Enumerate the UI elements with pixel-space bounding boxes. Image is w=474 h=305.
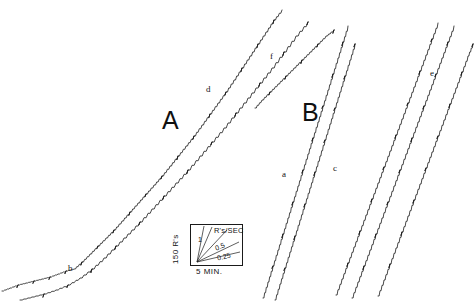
panel-letter-a: A <box>162 108 179 133</box>
curve-label-d: d <box>206 85 211 94</box>
cumulative-trace-f <box>255 30 334 108</box>
cumulative-trace-a <box>263 26 348 298</box>
panel-letter-b: B <box>302 100 319 125</box>
curve-label-e: e <box>430 69 434 78</box>
inset-y-axis-label: 150 R's <box>172 234 180 264</box>
cumulative-trace-c2 <box>352 26 454 298</box>
curve-label-f: f <box>270 52 273 61</box>
curve-label-c: c <box>333 164 337 173</box>
inset-x-axis-label: 5 MIN. <box>196 268 223 276</box>
cumulative-response-figure: A B b d f a c e 150 R's 5 MIN. R's/SEC 1… <box>0 0 474 305</box>
inset-rate-unit-label: R's/SEC <box>214 227 244 235</box>
cumulative-trace-c <box>336 23 438 295</box>
cumulative-trace-d <box>20 22 308 300</box>
cumulative-trace-e <box>378 44 473 296</box>
curve-label-a: a <box>282 170 286 179</box>
curve-label-b: b <box>68 264 73 273</box>
cumulative-trace-a2 <box>275 44 355 300</box>
inset-slope-label-1: 1 <box>198 236 202 243</box>
